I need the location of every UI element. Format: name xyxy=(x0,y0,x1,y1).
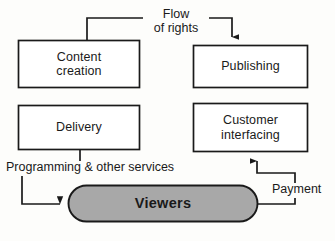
node-customer-interfacing xyxy=(194,104,308,152)
node-publishing xyxy=(194,46,308,88)
node-delivery xyxy=(19,106,140,150)
diagram-canvas: Content creation Publishing Delivery Cus… xyxy=(0,0,335,241)
node-viewers xyxy=(69,186,258,222)
edge-label-flow-of-rights: Flow of rights xyxy=(143,8,209,36)
diagram-graphics xyxy=(0,0,335,241)
edge-label-payment: Payment xyxy=(270,183,330,197)
edge-label-programming-other-services: Programming & other services xyxy=(4,161,198,175)
node-content-creation xyxy=(19,41,140,88)
